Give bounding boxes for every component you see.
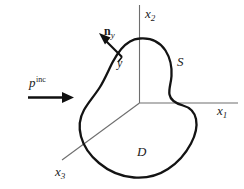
axis-label-x2: x2	[145, 7, 155, 20]
domain-label: D	[137, 145, 146, 158]
axis-label-x1: x1	[217, 104, 227, 117]
incident-field-superscript: inc	[36, 75, 46, 84]
axis-label-x1-symbol: x	[217, 103, 223, 118]
axis-label-x3-symbol: x	[55, 164, 61, 179]
surface-point-label: y	[117, 57, 122, 69]
incident-field-label: pinc	[29, 76, 45, 89]
diagram-canvas	[0, 0, 244, 189]
axis-label-x2-symbol: x	[145, 6, 151, 21]
axis-line-x3	[62, 103, 140, 160]
axis-label-x3-subscript: 3	[61, 171, 66, 181]
axis-label-x1-subscript: 1	[223, 110, 228, 120]
normal-vector-label: ny	[104, 25, 115, 37]
axis-label-x3: x3	[55, 165, 65, 178]
incident-wave-arrow	[28, 92, 74, 103]
incident-field-symbol: p	[29, 75, 36, 90]
coordinate-axes	[62, 5, 238, 160]
normal-vector-subscript: y	[111, 30, 115, 40]
scattering-geometry-figure: x2 x1 x3 pinc ny y S D	[0, 0, 244, 189]
axis-label-x2-subscript: 2	[151, 13, 156, 23]
surface-label: S	[177, 55, 184, 68]
normal-vector-symbol: n	[104, 24, 111, 38]
